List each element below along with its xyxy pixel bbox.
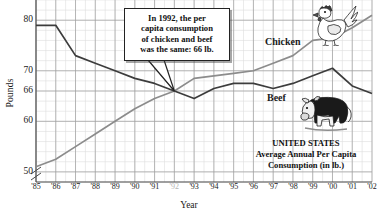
x-tick-label: '00 bbox=[322, 182, 342, 191]
x-tick-label: '96 bbox=[243, 182, 263, 191]
rooster-icon bbox=[300, 0, 358, 46]
y-tick-label: 50 bbox=[7, 166, 33, 176]
callout-line-3: of chicken and beef bbox=[129, 34, 225, 44]
caption-line-1: UNITED STATES bbox=[236, 138, 376, 149]
x-tick-label: '99 bbox=[303, 182, 323, 191]
y-tick-label: 66 bbox=[7, 85, 33, 95]
callout-annotation: In 1992, the per capita consumption of c… bbox=[124, 8, 230, 61]
y-tick-label: 60 bbox=[7, 115, 33, 125]
chart-container: Pounds 8070666050 '85'86'87'88'89'90'91'… bbox=[0, 0, 378, 215]
x-tick-label: '97 bbox=[263, 182, 283, 191]
callout-line-2: capita consumption bbox=[129, 23, 225, 33]
y-tick-label: 70 bbox=[7, 65, 33, 75]
x-tick-label: '01 bbox=[342, 182, 362, 191]
x-tick-label: '95 bbox=[224, 182, 244, 191]
x-tick-label: '87 bbox=[66, 182, 86, 191]
x-tick-label: '88 bbox=[85, 182, 105, 191]
x-tick-label: '85 bbox=[26, 182, 46, 191]
x-tick-label: '02 bbox=[362, 182, 378, 191]
cow-icon bbox=[295, 88, 357, 134]
chart-caption: UNITED STATES Average Annual Per Capita … bbox=[236, 138, 376, 171]
beef-series-label: Beef bbox=[267, 92, 286, 103]
caption-line-2: Average Annual Per Capita bbox=[236, 149, 376, 160]
chicken-series-label: Chicken bbox=[265, 36, 301, 47]
x-tick-label: '92 bbox=[164, 182, 184, 191]
x-tick-label: '86 bbox=[46, 182, 66, 191]
x-tick-label: '94 bbox=[204, 182, 224, 191]
x-tick-label: '98 bbox=[283, 182, 303, 191]
x-axis-title: Year bbox=[0, 200, 378, 210]
x-tick-label: '90 bbox=[125, 182, 145, 191]
x-tick-label: '93 bbox=[184, 182, 204, 191]
x-tick-label: '89 bbox=[105, 182, 125, 191]
x-tick-label: '91 bbox=[145, 182, 165, 191]
caption-line-3: Consumption (in lb.) bbox=[236, 160, 376, 171]
y-tick-label: 80 bbox=[7, 14, 33, 24]
callout-line-4: was the same: 66 lb. bbox=[129, 44, 225, 54]
callout-line-1: In 1992, the per bbox=[129, 13, 225, 23]
x-axis-ticks: '85'86'87'88'89'90'91'92'93'94'95'96'97'… bbox=[0, 182, 378, 196]
